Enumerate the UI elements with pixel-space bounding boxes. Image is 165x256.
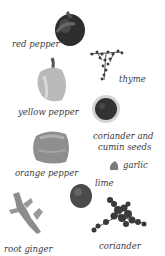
coriander-cumin-seeds-image bbox=[91, 94, 121, 124]
coriander-cumin-label-line2: cumin seeds bbox=[98, 142, 151, 152]
coriander-cumin-label-line1: coriander and bbox=[93, 131, 153, 141]
garlic-image bbox=[108, 160, 120, 172]
ingredients-illustration: red pepper thyme yellow pepper coriander… bbox=[0, 0, 165, 256]
red-pepper-label: red pepper bbox=[12, 39, 60, 49]
orange-pepper-image bbox=[30, 128, 72, 166]
coriander-image bbox=[88, 194, 150, 236]
root-ginger-label: root ginger bbox=[4, 244, 53, 254]
yellow-pepper-image bbox=[32, 56, 72, 104]
orange-pepper-label: orange pepper bbox=[15, 168, 78, 178]
thyme-label: thyme bbox=[119, 74, 146, 84]
coriander-label: coriander bbox=[99, 241, 141, 251]
garlic-label: garlic bbox=[123, 160, 148, 170]
root-ginger-image bbox=[7, 188, 49, 236]
lime-label: lime bbox=[95, 178, 114, 188]
yellow-pepper-label: yellow pepper bbox=[18, 107, 79, 117]
